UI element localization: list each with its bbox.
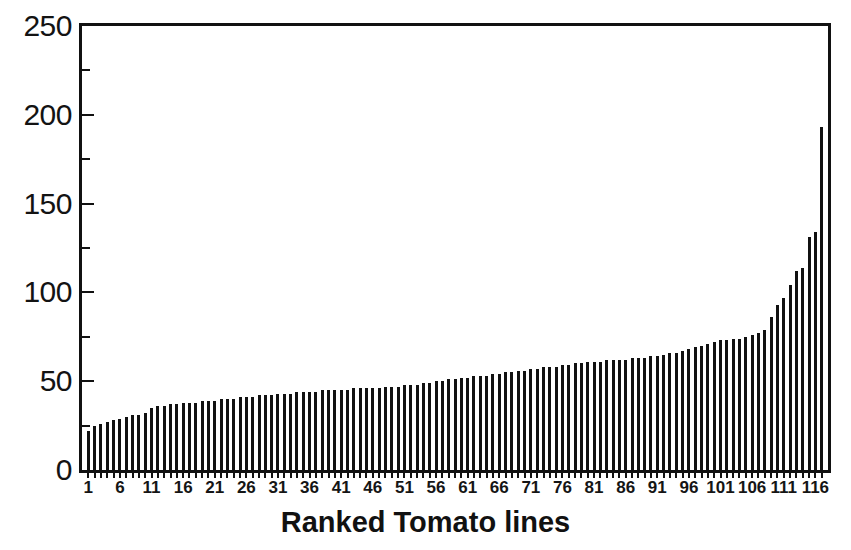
x-axis-tick bbox=[707, 470, 709, 478]
bar bbox=[454, 379, 457, 470]
bar bbox=[226, 399, 229, 470]
x-axis-tick bbox=[612, 470, 614, 478]
x-axis-tick bbox=[271, 470, 273, 478]
x-axis-tick bbox=[625, 470, 627, 478]
x-axis-tick bbox=[365, 470, 367, 478]
bar bbox=[725, 340, 728, 470]
x-axis-tick bbox=[764, 470, 766, 478]
bar bbox=[163, 406, 166, 470]
x-axis-tick bbox=[561, 470, 563, 478]
x-axis-tick bbox=[770, 470, 772, 478]
bar bbox=[555, 367, 558, 470]
x-axis-tick bbox=[334, 470, 336, 478]
y-tick-label: 150 bbox=[2, 189, 72, 219]
bar bbox=[378, 388, 381, 470]
x-axis-tick bbox=[751, 470, 753, 478]
bar bbox=[169, 404, 172, 470]
x-axis-tick bbox=[302, 470, 304, 478]
x-axis-tick bbox=[517, 470, 519, 478]
bar bbox=[87, 431, 90, 470]
bar bbox=[264, 395, 267, 470]
x-axis-tick bbox=[328, 470, 330, 478]
bar bbox=[466, 378, 469, 470]
bar bbox=[631, 358, 634, 470]
bar bbox=[687, 349, 690, 470]
bar bbox=[245, 397, 248, 470]
x-axis-tick bbox=[726, 470, 728, 478]
bars-series bbox=[82, 26, 828, 470]
bar bbox=[776, 305, 779, 470]
bar bbox=[738, 339, 741, 470]
x-axis-tick bbox=[448, 470, 450, 478]
bar bbox=[397, 387, 400, 470]
bar bbox=[675, 353, 678, 470]
x-axis-tick bbox=[163, 470, 165, 478]
x-axis-tick bbox=[321, 470, 323, 478]
x-axis-tick bbox=[410, 470, 412, 478]
x-axis-tick bbox=[682, 470, 684, 478]
x-tick-label: 16 bbox=[174, 478, 193, 498]
x-axis-tick bbox=[429, 470, 431, 478]
bar bbox=[150, 408, 153, 470]
x-axis-tick bbox=[745, 470, 747, 478]
x-axis-tick bbox=[789, 470, 791, 478]
bar bbox=[770, 317, 773, 470]
x-axis-tick bbox=[524, 470, 526, 478]
x-tick-label: 106 bbox=[738, 478, 766, 498]
x-axis-tick bbox=[568, 470, 570, 478]
x-axis-tick bbox=[599, 470, 601, 478]
x-axis-tick bbox=[549, 470, 551, 478]
bar bbox=[321, 390, 324, 470]
bar bbox=[548, 367, 551, 470]
x-axis-tick bbox=[580, 470, 582, 478]
x-axis-tick bbox=[498, 470, 500, 478]
bar bbox=[567, 365, 570, 470]
x-axis-tick bbox=[543, 470, 545, 478]
x-tick-label: 91 bbox=[648, 478, 667, 498]
x-axis-tick bbox=[384, 470, 386, 478]
x-axis-tick bbox=[631, 470, 633, 478]
bar bbox=[302, 392, 305, 470]
bar bbox=[612, 360, 615, 470]
x-tick-label: 96 bbox=[679, 478, 698, 498]
x-axis-tick bbox=[87, 470, 89, 478]
bar bbox=[593, 362, 596, 470]
x-tick-label: 21 bbox=[205, 478, 224, 498]
x-tick-label: 46 bbox=[363, 478, 382, 498]
bar bbox=[131, 415, 134, 470]
x-axis-tick bbox=[435, 470, 437, 478]
bar bbox=[472, 376, 475, 470]
x-axis-tick bbox=[587, 470, 589, 478]
x-axis-tick bbox=[201, 470, 203, 478]
bar bbox=[390, 387, 393, 470]
bar bbox=[333, 390, 336, 470]
x-axis-tick bbox=[536, 470, 538, 478]
bar bbox=[795, 271, 798, 470]
x-axis-tick bbox=[233, 470, 235, 478]
bar bbox=[757, 333, 760, 470]
bar bbox=[194, 403, 197, 470]
x-axis-tick bbox=[460, 470, 462, 478]
x-tick-label: 81 bbox=[585, 478, 604, 498]
x-axis-tick bbox=[720, 470, 722, 478]
bar bbox=[820, 127, 823, 470]
bar bbox=[346, 390, 349, 470]
bar bbox=[175, 404, 178, 470]
bar bbox=[694, 347, 697, 470]
x-tick-label: 31 bbox=[269, 478, 288, 498]
x-axis-tick bbox=[701, 470, 703, 478]
bar bbox=[789, 285, 792, 470]
x-axis-tick bbox=[226, 470, 228, 478]
x-axis-tick bbox=[252, 470, 254, 478]
bar bbox=[384, 387, 387, 470]
bar bbox=[327, 390, 330, 470]
bar bbox=[289, 394, 292, 470]
bar bbox=[371, 388, 374, 470]
bar bbox=[510, 372, 513, 470]
x-axis-tick bbox=[416, 470, 418, 478]
x-axis-tick bbox=[245, 470, 247, 478]
x-axis-tick bbox=[422, 470, 424, 478]
x-axis-tick bbox=[296, 470, 298, 478]
x-tick-label: 36 bbox=[300, 478, 319, 498]
bar bbox=[814, 232, 817, 470]
